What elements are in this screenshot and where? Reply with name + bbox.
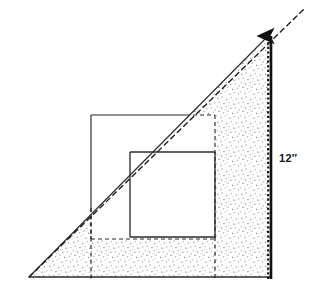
geometry-diagram xyxy=(0,0,309,290)
square-interiors xyxy=(91,115,215,239)
vertical-dimension-label: 12″ xyxy=(279,152,297,164)
figure-root: 12″ xyxy=(0,0,309,290)
